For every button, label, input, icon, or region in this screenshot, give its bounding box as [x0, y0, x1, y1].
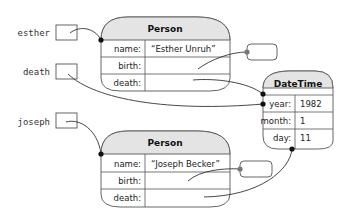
field-value-name: “Esther Unruh”	[151, 44, 216, 54]
null-dot	[237, 166, 242, 171]
field-label-death: death:	[114, 193, 141, 203]
ref-dot	[98, 151, 103, 156]
variable-label: joseph	[17, 117, 50, 127]
ref-dot	[289, 146, 294, 151]
datetime-object: DateTime year: 1982 month: 1 day: 11	[261, 71, 333, 149]
null-box-2	[240, 161, 272, 177]
object-title: Person	[147, 24, 182, 34]
field-value-year: 1982	[300, 99, 322, 109]
field-label-year: year:	[269, 99, 291, 109]
field-label-birth: birth:	[118, 61, 141, 71]
variable-joseph: joseph	[17, 113, 77, 128]
variable-box	[56, 25, 77, 40]
variable-box	[56, 113, 77, 128]
field-value-name: “Joseph Becker”	[151, 159, 220, 169]
null-dot	[244, 49, 249, 54]
ref-dot	[98, 37, 103, 42]
ref-dot	[260, 91, 265, 96]
null-box-1	[247, 44, 277, 60]
variable-esther: esther	[17, 25, 77, 40]
person-object-joseph: Person name: “Joseph Becker” birth: deat…	[101, 131, 230, 207]
field-label-name: name:	[114, 159, 141, 169]
field-label-death: death:	[114, 78, 141, 88]
object-reference-diagram: esther death joseph Person name: “Esther…	[0, 0, 353, 217]
variable-label: death	[23, 67, 50, 77]
object-title: Person	[147, 138, 182, 148]
field-label-name: name:	[114, 44, 141, 54]
field-value-day: 11	[300, 133, 311, 143]
object-title: DateTime	[274, 79, 323, 89]
variable-death: death	[23, 64, 77, 79]
field-label-month: month:	[261, 116, 291, 126]
ref-dot	[260, 101, 265, 106]
variable-box	[56, 64, 77, 79]
field-label-birth: birth:	[118, 176, 141, 186]
field-label-day: day:	[273, 133, 291, 143]
field-value-month: 1	[300, 116, 305, 126]
variable-label: esther	[17, 28, 50, 38]
